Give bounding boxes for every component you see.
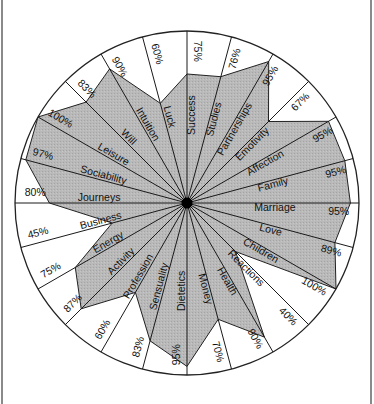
category-label-marriage: Marriage — [254, 201, 296, 213]
value-label-success: 75% — [192, 41, 204, 62]
value-label-dietetics: 95% — [170, 344, 182, 365]
category-label-journeys: Journeys — [78, 191, 121, 203]
radar-chart: SuccessStudiesPartnershipsEmotivityAffec… — [0, 0, 374, 404]
category-label-dietetics: Dietetics — [175, 271, 187, 311]
center-hub — [182, 198, 193, 209]
value-label-marriage: 95% — [328, 205, 349, 217]
value-label-journeys: 80% — [25, 186, 46, 198]
category-label-success: Success — [185, 95, 197, 135]
